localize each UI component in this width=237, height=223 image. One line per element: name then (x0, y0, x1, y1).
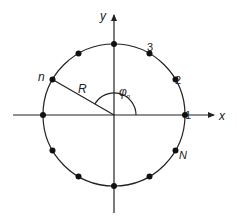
angle-label: φn (119, 85, 131, 99)
x-axis-label: x (218, 109, 226, 123)
angle-symbol: φ (119, 85, 127, 99)
element-dot (50, 148, 56, 154)
element-dot (111, 183, 117, 189)
element-dot (173, 148, 179, 154)
element-label-n: n (38, 70, 45, 84)
y-axis-label: y (99, 9, 107, 23)
angle-subscript: n (127, 93, 131, 99)
element-label-1: 1 (185, 109, 191, 121)
circular-array-diagram: x y R φn 1 2 3 n N (0, 0, 237, 223)
element-dot (50, 77, 56, 83)
element-dot (76, 174, 82, 180)
element-label-3: 3 (147, 41, 153, 53)
radius-label: R (78, 82, 87, 96)
element-dot (40, 112, 46, 118)
element-dot (147, 174, 153, 180)
element-dot (111, 41, 117, 47)
element-label-2: 2 (175, 74, 181, 86)
element-dot (76, 51, 82, 57)
element-label-N: N (179, 149, 187, 161)
